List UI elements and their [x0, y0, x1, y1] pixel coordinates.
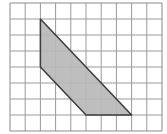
grid-diagram [0, 0, 167, 134]
